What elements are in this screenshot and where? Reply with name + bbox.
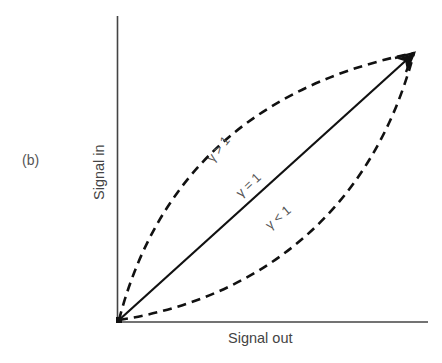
gamma-curve-diagram: γ > 1 γ = 1 γ < 1 Signal in Signal out (… — [0, 0, 442, 363]
label-gamma-eq-1: γ = 1 — [233, 170, 264, 200]
panel-label: (b) — [22, 152, 39, 168]
origin-marker — [116, 317, 122, 323]
y-axis-label: Signal in — [91, 144, 107, 200]
label-gamma-lt-1: γ < 1 — [262, 202, 294, 232]
line-gamma-eq-1 — [119, 55, 412, 320]
x-axis-label: Signal out — [228, 330, 293, 346]
